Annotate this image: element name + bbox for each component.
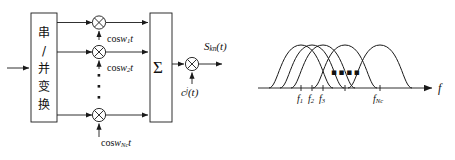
carrier-omega-n: w [114,137,121,148]
carrier-label-n: coswNct [101,138,131,149]
tick-sub-f3: 3 [322,97,325,104]
tick-label-f1: f1 [297,94,303,105]
sp-char-2: 并 [31,63,57,75]
carrier-prefix-n: cos [101,137,114,148]
tick-label-f3: f3 [319,94,325,105]
tick-sub-f1: 1 [300,97,303,104]
sp-char-4: 换 [31,99,57,111]
sp-char-3: 变 [31,81,57,93]
carrier-label-2: cosw2t [107,63,133,74]
carrier-prefix-1: cos [107,33,120,44]
block-diagram-vector [0,0,455,160]
carrier-omega-1: w [120,33,127,44]
tick-label-f2: f2 [308,94,314,105]
sp-char-0: 串 [31,27,57,39]
carrier-prefix-2: cos [107,62,120,73]
tick-label-fnc: fNc [373,94,383,105]
carrier-omega-2: w [120,62,127,73]
carrier-suffix-1: t [130,33,133,44]
tick-sub-fnc: Nc [376,97,383,104]
sp-char-1: / [31,45,57,57]
carrier-label-1: cosw1t [107,34,133,45]
summation-symbol: Σ [153,58,163,78]
spreading-code-arg: (t) [188,86,198,98]
carrier-suffix-n: t [128,137,131,148]
spectrum-center-ellipsis: ▪▪▪▪ [331,67,361,77]
figure-root: 串 / 并 变 换 Σ cosw1t cosw2t coswNct cj(t) … [0,0,455,160]
frequency-axis-label: f [438,82,441,94]
output-signal-label: Skn(t) [204,41,227,54]
output-arg: (t) [216,40,226,52]
tick-sub-f2: 2 [311,97,314,104]
spreading-code-label: cj(t) [181,87,198,98]
vertical-ellipsis-dots [98,74,101,99]
carrier-suffix-2: t [130,62,133,73]
